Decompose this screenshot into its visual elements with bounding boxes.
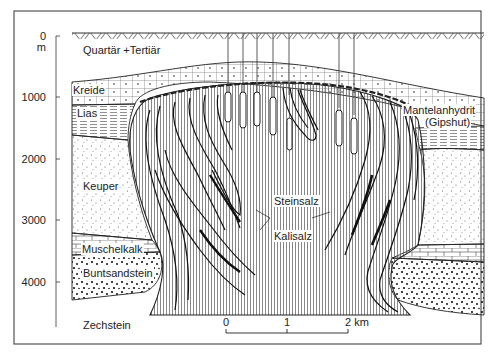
- label-quartaer-tertiaer: Quartär +Tertiär: [82, 44, 161, 56]
- lias-right: [415, 126, 484, 150]
- cross-section-drawing: [0, 0, 495, 355]
- scale-label-1: 1: [284, 316, 290, 328]
- depth-tick-4000: 4000: [6, 276, 46, 288]
- cross-section-figure: 0 m 1000 2000 3000 4000 Quartär +Tertiär…: [0, 0, 495, 355]
- label-zechstein: Zechstein: [82, 319, 132, 331]
- label-lias: Lias: [76, 107, 98, 119]
- label-muschelkalk: Muschelkalk: [81, 243, 144, 255]
- label-keuper: Keuper: [82, 180, 119, 192]
- label-kalisalz: Kalisalz: [273, 230, 313, 242]
- depth-tick-1000: 1000: [6, 91, 46, 103]
- depth-tick-2000: 2000: [6, 153, 46, 165]
- label-buntsandstein: Buntsandstein: [82, 267, 154, 279]
- label-mantelanhydrit: Mantelanhydrit: [402, 104, 476, 116]
- depth-tick-3000: 3000: [6, 214, 46, 226]
- scale-label-2km: 2 km: [345, 316, 369, 328]
- ground-surface: [72, 33, 484, 39]
- label-kreide: Kreide: [72, 84, 106, 96]
- scale-label-0: 0: [223, 316, 229, 328]
- label-gipshut: (Gipshut): [424, 116, 471, 128]
- depth-unit: m: [6, 41, 46, 53]
- keuper-right: [418, 149, 484, 246]
- label-steinsalz: Steinsalz: [273, 195, 320, 207]
